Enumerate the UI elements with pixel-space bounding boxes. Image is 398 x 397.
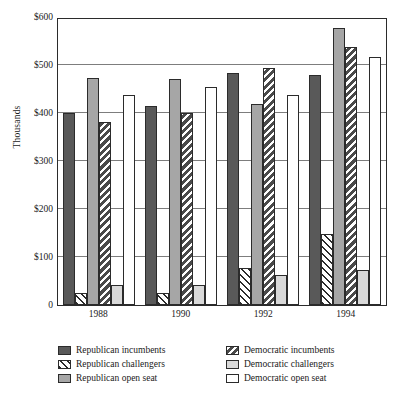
legend-swatch-icon: [58, 374, 71, 383]
legend-swatch-icon: [226, 374, 239, 383]
legend-label: Democratic challengers: [244, 359, 334, 370]
bar: [63, 113, 75, 305]
legend-item: Republican open seat: [58, 373, 220, 384]
bar: [275, 275, 287, 305]
bar-group: [140, 19, 222, 305]
bar: [99, 122, 111, 305]
legend-swatch-icon: [226, 346, 239, 355]
bar: [87, 78, 99, 305]
bar: [157, 293, 169, 305]
x-axis-tick-label: 1992: [222, 309, 305, 325]
x-axis-tick-label: 1988: [57, 309, 140, 325]
y-axis-tick-label: $500: [7, 61, 53, 71]
bar: [111, 285, 123, 305]
bar-group: [58, 19, 140, 305]
bar: [333, 28, 345, 305]
bar: [75, 293, 87, 305]
legend-item: Republican challengers: [58, 359, 220, 370]
bar: [227, 73, 239, 305]
x-axis-tick-label: 1994: [305, 309, 388, 325]
bar-groups: [58, 19, 386, 305]
legend-label: Republican open seat: [76, 373, 157, 384]
legend-label: Republican challengers: [76, 359, 165, 370]
x-axis-tick-labels: 1988199019921994: [57, 309, 387, 325]
bar: [287, 95, 299, 305]
legend-swatch-icon: [58, 346, 71, 355]
bar-chart-figure: Thousands 0$100$200$300$400$500$600 1988…: [0, 0, 398, 397]
legend-swatch-icon: [58, 360, 71, 369]
bar: [357, 270, 369, 305]
bar: [369, 57, 381, 305]
y-axis-tick-label: $600: [7, 13, 53, 23]
y-axis-tick-label: $200: [7, 205, 53, 215]
bar: [321, 234, 333, 305]
legend-label: Democratic open seat: [244, 373, 326, 384]
bar-group: [304, 19, 386, 305]
bar: [345, 47, 357, 305]
plot-area: [57, 18, 387, 306]
legend-item: Democratic open seat: [226, 373, 388, 384]
bar-group: [222, 19, 304, 305]
legend-label: Democratic incumbents: [244, 345, 334, 356]
legend-label: Republican incumbents: [76, 345, 165, 356]
legend-item: Democratic incumbents: [226, 345, 388, 356]
y-axis-title: Thousands: [12, 72, 22, 182]
legend-item: Democratic challengers: [226, 359, 388, 370]
bar: [251, 104, 263, 305]
legend-swatch-icon: [226, 360, 239, 369]
bar: [145, 106, 157, 305]
bar: [239, 268, 251, 305]
bar: [205, 87, 217, 305]
chart-legend: Republican incumbentsDemocratic incumben…: [58, 345, 388, 384]
y-axis-tick-label: $100: [7, 253, 53, 263]
bar: [263, 68, 275, 305]
bar: [123, 95, 135, 305]
bar: [169, 79, 181, 305]
y-axis-tick-label: 0: [7, 301, 53, 311]
bar: [309, 75, 321, 305]
x-axis-tick-label: 1990: [140, 309, 223, 325]
bar: [193, 285, 205, 305]
bar: [181, 113, 193, 305]
legend-item: Republican incumbents: [58, 345, 220, 356]
